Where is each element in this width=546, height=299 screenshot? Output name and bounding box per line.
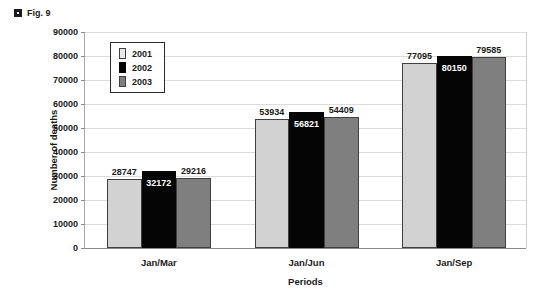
bar[interactable]: 80150 [437,56,472,248]
y-axis-tick [81,104,85,105]
bar[interactable]: 32172 [142,171,177,248]
y-axis-label: 20000 [53,195,78,205]
y-axis-label: 10000 [53,219,78,229]
figure-caption: Fig. 9 [14,8,51,18]
y-axis-tick [81,248,85,249]
figure-caption-label: Fig. 9 [27,8,51,18]
y-axis-label: 50000 [53,123,78,133]
bar-group-bars: 539345682154409 [255,32,359,248]
y-axis-tick [81,32,85,33]
y-axis-tick [81,80,85,81]
legend-item-label: 2001 [132,49,152,59]
bar-group: 539345682154409Jan/Jun [255,32,359,248]
bar[interactable]: 54409 [324,117,359,248]
legend-item-label: 2002 [132,63,152,73]
x-axis-category-label: Jan/Mar [107,257,211,268]
bar-value-label: 29216 [181,166,206,176]
legend-item-label: 2003 [132,77,152,87]
bar-value-label: 54409 [329,105,354,115]
y-axis-label: 90000 [53,27,78,37]
bar-value-label: 32172 [146,178,171,188]
y-axis-label: 80000 [53,51,78,61]
y-axis-label: 40000 [53,147,78,157]
y-axis-label: 70000 [53,75,78,85]
y-axis-tick [81,152,85,153]
bar-value-label: 28747 [112,167,137,177]
y-axis-tick [81,200,85,201]
y-axis-label: 30000 [53,171,78,181]
x-axis-category-label: Jan/Sep [402,257,506,268]
y-axis-tick [81,128,85,129]
legend-swatch-icon [119,76,126,87]
bar-group: 770958015079585Jan/Sep [402,32,506,248]
bar-value-label: 79585 [476,45,501,55]
legend-swatch-icon [119,48,126,59]
legend-item-2002[interactable]: 2002 [119,62,152,73]
bar[interactable]: 28747 [107,179,142,248]
bar[interactable]: 79585 [472,57,507,248]
y-axis-tick [81,224,85,225]
legend-item-2003[interactable]: 2003 [119,76,152,87]
bar[interactable]: 53934 [255,119,290,248]
bar[interactable]: 29216 [176,178,211,248]
figure-marker-icon [14,9,22,17]
bar-value-label: 80150 [442,63,467,73]
bar-chart: Fig. 9 Number of deaths 0100002000030000… [0,0,546,299]
y-axis-tick [81,176,85,177]
legend-item-2001[interactable]: 2001 [119,48,152,59]
y-axis-label: 0 [73,243,78,253]
legend-swatch-icon [119,62,126,73]
x-axis-category-label: Jan/Jun [255,257,359,268]
y-axis-tick [81,56,85,57]
bar-value-label: 77095 [407,51,432,61]
bar-value-label: 53934 [259,107,284,117]
bar-group-bars: 770958015079585 [402,32,506,248]
y-axis-label: 60000 [53,99,78,109]
bar[interactable]: 77095 [402,63,437,248]
bar[interactable]: 56821 [289,112,324,248]
gridline [85,248,526,249]
x-axis-title: Periods [84,276,527,287]
chart-legend: 200120022003 [110,42,165,93]
bar-value-label: 56821 [294,119,319,129]
